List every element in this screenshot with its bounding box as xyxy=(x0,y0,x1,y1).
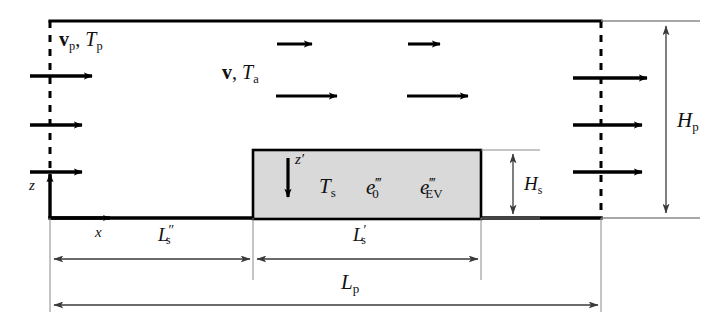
label-axis-x-symbol: x xyxy=(95,224,102,240)
label-height-block-sub: s xyxy=(538,184,543,197)
label-z-prime-mark: ′ xyxy=(301,151,304,167)
label-inlet-comma: , xyxy=(75,28,85,50)
label-length-upstream-sub: s xyxy=(166,234,171,247)
label-axis-z: z xyxy=(29,178,35,193)
label-block-temperature: Ts xyxy=(319,176,336,199)
label-axis-x: x xyxy=(95,225,102,240)
label-axis-z-prime: z′ xyxy=(295,152,304,167)
label-source-term-0-sub: 0 xyxy=(372,186,379,201)
label-free-stream-vector: v xyxy=(222,61,232,83)
label-inlet-temperature-sub: p xyxy=(96,39,102,53)
label-free-stream-temperature-sub: a xyxy=(253,72,259,86)
label-free-stream-velocity-temperature: v, Ta xyxy=(222,62,259,85)
label-inlet-temperature-symbol: T xyxy=(85,28,96,50)
schematic-figure: vp, Tp v, Ta z′ Ts e‴0 e‴EV z x Hp Hs L″… xyxy=(0,0,716,330)
label-height-block: Hs xyxy=(524,174,542,196)
label-height-channel-sub: p xyxy=(692,119,699,134)
label-source-term-ev: e‴EV xyxy=(420,176,443,200)
label-block-temperature-sub: s xyxy=(331,185,336,200)
label-inlet-velocity-vector: v xyxy=(59,28,69,50)
interior-arrow-group xyxy=(276,44,468,96)
label-height-channel-symbol: H xyxy=(677,108,692,132)
label-length-channel: Lp xyxy=(341,272,359,295)
label-height-block-symbol: H xyxy=(524,173,538,194)
label-length-block-sub: s xyxy=(361,234,366,247)
witness-lines xyxy=(50,218,601,312)
label-length-channel-sub: p xyxy=(353,281,360,296)
label-height-channel: Hp xyxy=(677,110,699,133)
label-block-temperature-symbol: T xyxy=(319,174,331,198)
label-free-stream-comma: , xyxy=(232,61,242,83)
label-source-term-ev-sub: EV xyxy=(425,186,443,201)
label-inlet-velocity-temperature: vp, Tp xyxy=(59,29,103,52)
outlet-arrow-group xyxy=(573,78,647,172)
label-source-term-0: e‴0 xyxy=(366,176,379,200)
label-length-upstream: L″s xyxy=(158,224,171,247)
inlet-arrow-group xyxy=(30,76,92,172)
label-free-stream-temperature-symbol: T xyxy=(242,61,253,83)
label-axis-z-symbol: z xyxy=(29,177,35,193)
label-length-block: L′s xyxy=(353,224,366,247)
label-length-channel-symbol: L xyxy=(341,270,353,294)
